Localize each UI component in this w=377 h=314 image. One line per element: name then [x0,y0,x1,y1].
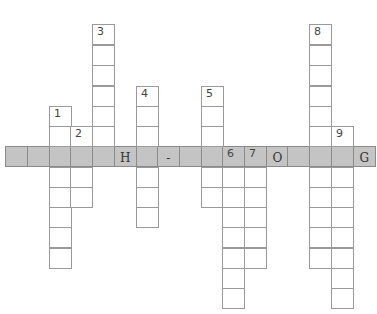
clue-number: 9 [336,128,343,140]
crossword-cell[interactable] [49,126,72,147]
crossword-cell[interactable]: 8 [309,24,332,45]
crossword-cell[interactable] [309,248,332,269]
highlighted-cell[interactable] [331,146,354,167]
crossword-cell[interactable] [49,207,72,228]
highlighted-cell[interactable] [136,146,159,167]
crossword-cell[interactable] [136,106,159,127]
highlighted-cell[interactable] [5,146,28,167]
crossword-cell[interactable] [244,167,267,188]
highlighted-cell[interactable]: G [353,146,376,167]
cell-letter: O [267,151,288,165]
highlighted-cell[interactable] [201,146,224,167]
crossword-cell[interactable] [136,207,159,228]
crossword-cell[interactable] [136,126,159,147]
crossword-cell[interactable] [136,187,159,208]
highlighted-cell[interactable]: 6 [222,146,245,167]
highlighted-cell[interactable] [70,146,93,167]
crossword-cell[interactable] [331,288,354,309]
clue-number: 8 [314,26,321,38]
crossword-cell[interactable] [331,167,354,188]
highlighted-cell[interactable]: H [114,146,137,167]
clue-number: 6 [227,148,234,160]
crossword-grid: H-67OG1234589 [0,0,377,314]
highlighted-cell[interactable] [287,146,310,167]
crossword-cell[interactable] [201,126,224,147]
crossword-cell[interactable] [222,227,245,248]
crossword-cell[interactable]: 1 [49,106,72,127]
crossword-cell[interactable] [309,207,332,228]
crossword-cell[interactable] [92,86,115,107]
clue-number: 2 [75,128,82,140]
crossword-cell[interactable] [309,65,332,86]
highlighted-cell[interactable] [92,146,115,167]
crossword-cell[interactable] [309,187,332,208]
crossword-cell[interactable] [49,248,72,269]
clue-number: 3 [97,26,104,38]
crossword-cell[interactable] [309,106,332,127]
crossword-cell[interactable] [222,207,245,228]
clue-number: 7 [249,148,256,160]
crossword-cell[interactable] [136,167,159,188]
crossword-cell[interactable]: 4 [136,86,159,107]
crossword-cell[interactable] [309,86,332,107]
crossword-cell[interactable] [70,167,93,188]
crossword-cell[interactable]: 9 [331,126,354,147]
crossword-cell[interactable]: 5 [201,86,224,107]
crossword-cell[interactable] [331,268,354,289]
crossword-cell[interactable] [92,65,115,86]
highlighted-cell[interactable] [49,146,72,167]
clue-number: 4 [141,88,148,100]
crossword-cell[interactable] [222,288,245,309]
crossword-cell[interactable] [309,126,332,147]
crossword-cell[interactable] [49,187,72,208]
crossword-cell[interactable] [49,167,72,188]
highlighted-cell[interactable] [27,146,50,167]
crossword-cell[interactable]: 3 [92,24,115,45]
crossword-cell[interactable] [244,187,267,208]
highlighted-cell[interactable] [179,146,202,167]
crossword-cell[interactable] [201,167,224,188]
clue-number: 1 [54,108,61,120]
crossword-cell[interactable]: 2 [70,126,93,147]
crossword-cell[interactable] [70,187,93,208]
highlighted-cell[interactable]: - [157,146,180,167]
crossword-cell[interactable] [92,45,115,66]
crossword-cell[interactable] [309,227,332,248]
crossword-cell[interactable] [331,248,354,269]
clue-number: 5 [206,88,213,100]
crossword-cell[interactable] [331,207,354,228]
crossword-cell[interactable] [244,227,267,248]
crossword-cell[interactable] [201,106,224,127]
highlighted-cell[interactable]: 7 [244,146,267,167]
crossword-cell[interactable] [222,187,245,208]
highlighted-cell[interactable]: O [266,146,289,167]
cell-letter: - [158,151,179,165]
highlighted-cell[interactable] [309,146,332,167]
crossword-cell[interactable] [309,167,332,188]
cell-letter: G [354,151,375,165]
crossword-cell[interactable] [222,167,245,188]
crossword-cell[interactable] [201,187,224,208]
crossword-cell[interactable] [244,207,267,228]
crossword-cell[interactable] [49,227,72,248]
crossword-cell[interactable] [331,187,354,208]
crossword-cell[interactable] [309,45,332,66]
crossword-cell[interactable] [244,248,267,269]
crossword-cell[interactable] [92,106,115,127]
crossword-cell[interactable] [92,126,115,147]
cell-letter: H [115,151,136,165]
crossword-cell[interactable] [331,227,354,248]
crossword-cell[interactable] [222,248,245,269]
crossword-cell[interactable] [222,268,245,289]
